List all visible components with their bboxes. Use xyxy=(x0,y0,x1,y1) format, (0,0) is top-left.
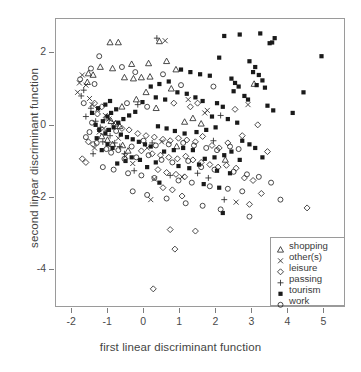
x-tick-mark xyxy=(323,308,324,313)
x-tick-mark xyxy=(107,308,108,313)
data-point xyxy=(174,143,180,149)
data-point xyxy=(258,31,262,35)
data-point xyxy=(131,168,137,174)
data-point xyxy=(83,83,88,88)
data-point xyxy=(119,65,124,70)
data-point xyxy=(198,121,204,127)
data-point xyxy=(145,165,149,169)
data-point xyxy=(108,99,112,103)
data-point xyxy=(170,160,175,165)
x-tick-mark xyxy=(287,308,288,313)
data-point xyxy=(210,114,214,118)
circle-icon xyxy=(274,296,287,307)
data-point xyxy=(233,81,237,85)
data-point xyxy=(135,102,141,108)
data-point xyxy=(139,173,144,178)
data-point xyxy=(260,155,264,159)
data-point xyxy=(263,86,267,90)
data-point xyxy=(217,56,221,60)
y-tick-label: 2 xyxy=(24,45,46,57)
data-point xyxy=(160,185,166,191)
data-point xyxy=(168,86,174,92)
data-point xyxy=(174,156,180,162)
data-point xyxy=(184,137,190,143)
data-point xyxy=(109,111,113,115)
data-point xyxy=(226,117,230,121)
data-point xyxy=(208,74,212,78)
data-point xyxy=(241,175,247,181)
data-point xyxy=(191,148,195,152)
data-point xyxy=(119,104,125,110)
data-point xyxy=(167,227,173,233)
data-point xyxy=(218,207,223,212)
data-point xyxy=(107,39,113,45)
x-tick-mark xyxy=(143,308,144,313)
data-point xyxy=(116,121,120,125)
x-tick-mark xyxy=(71,308,72,313)
data-point xyxy=(157,181,161,185)
data-point xyxy=(164,196,169,201)
data-point xyxy=(153,143,158,148)
data-point xyxy=(211,84,216,89)
data-point xyxy=(96,106,100,110)
data-point xyxy=(179,83,184,88)
scatter-plot-figure: second linear discriminant function -4-2… xyxy=(0,0,361,372)
data-point xyxy=(126,127,132,133)
data-point xyxy=(250,177,256,183)
y-tick-mark xyxy=(49,269,54,270)
data-point xyxy=(124,101,129,106)
data-point xyxy=(103,131,107,135)
x-tick-label: 1 xyxy=(167,315,191,327)
data-point xyxy=(232,89,236,93)
diamond-icon xyxy=(274,263,287,274)
data-point xyxy=(114,107,118,111)
x-tick-label: -1 xyxy=(95,315,119,327)
legend-item-work[interactable]: work xyxy=(274,296,344,307)
data-point xyxy=(253,65,257,69)
data-point xyxy=(121,74,127,80)
data-point xyxy=(260,78,264,82)
y-tick-label: -4 xyxy=(24,262,46,274)
data-point xyxy=(195,100,201,106)
cross-x-icon xyxy=(274,252,287,263)
data-point xyxy=(228,144,233,149)
data-point xyxy=(138,148,144,154)
x-tick-mark xyxy=(251,308,252,313)
data-point xyxy=(133,70,138,75)
data-point xyxy=(150,286,156,292)
legend[interactable]: shoppingother(s)leisurepassingtourismwor… xyxy=(270,237,345,306)
data-point xyxy=(200,203,205,208)
data-point xyxy=(205,175,211,181)
data-point xyxy=(247,214,252,219)
data-point xyxy=(246,102,251,107)
data-point xyxy=(265,104,269,108)
data-point xyxy=(164,58,170,64)
data-point xyxy=(130,161,135,166)
data-point xyxy=(157,82,161,86)
data-point xyxy=(198,72,202,76)
data-point xyxy=(269,180,274,185)
data-point xyxy=(176,178,181,183)
data-point xyxy=(207,184,212,189)
data-point xyxy=(212,155,216,159)
data-point xyxy=(301,90,305,94)
data-point xyxy=(109,150,114,155)
data-point xyxy=(271,108,275,112)
data-point xyxy=(194,130,198,134)
data-point xyxy=(105,142,109,146)
plus-icon xyxy=(274,274,287,285)
data-point xyxy=(145,192,150,197)
square-icon xyxy=(274,285,287,296)
data-point xyxy=(162,149,166,153)
data-point xyxy=(100,139,106,145)
data-point xyxy=(264,149,270,155)
data-point xyxy=(181,146,185,150)
data-point xyxy=(319,54,323,58)
data-point xyxy=(97,54,102,59)
data-point xyxy=(129,144,134,149)
data-point xyxy=(130,155,134,159)
data-point xyxy=(148,197,153,202)
data-point xyxy=(97,128,101,132)
data-point xyxy=(137,140,141,144)
x-tick-mark xyxy=(179,308,180,313)
